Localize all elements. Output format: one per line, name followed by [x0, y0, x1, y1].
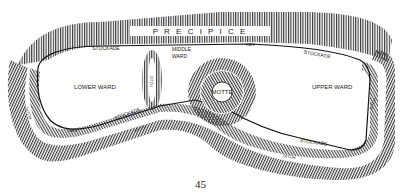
- stockade-label-top-left: STOCKADE: [92, 45, 120, 51]
- castle-plan-diagram: P R E C I P I C E STOCKADE STOCKADE MIDD…: [0, 0, 401, 194]
- motte-label: MOTTE: [212, 89, 233, 95]
- page-number: 45: [0, 178, 401, 190]
- ditch-label-middle: DITCH: [149, 76, 153, 87]
- gate-top-label: GATE: [246, 43, 256, 47]
- stockade-label-bottom-right: STOCKADE: [300, 137, 329, 147]
- middle-ward-label-line1: MIDDLE: [172, 46, 192, 52]
- middle-ward-label-line2: WARD: [172, 53, 187, 59]
- lower-ward-label: LOWER WARD: [74, 84, 116, 90]
- ditch-label-bottom-right: DITCH: [283, 153, 296, 160]
- precipice-label: P R E C I P I C E: [153, 27, 248, 36]
- upper-ward-label: UPPER WARD: [312, 84, 353, 90]
- gate-left-label: GATE: [68, 129, 78, 133]
